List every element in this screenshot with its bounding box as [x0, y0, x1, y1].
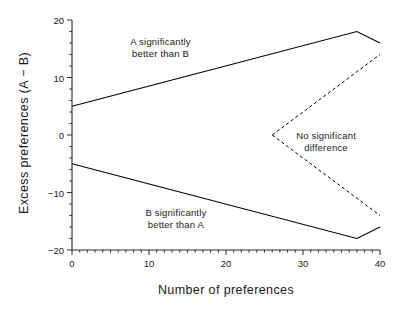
annotation-region-no-difference: No significant difference	[296, 130, 356, 154]
x-axis-tick-label: 40	[375, 258, 386, 269]
annotation-region-a-better: A significantly better than B	[130, 36, 191, 60]
annotation-region-b-better: B significantly better than A	[145, 207, 206, 231]
annotation-line: better than A	[145, 219, 206, 231]
series-line	[272, 55, 380, 136]
annotation-line: A significantly	[130, 36, 191, 48]
x-axis-tick-label: 20	[221, 258, 232, 269]
x-axis-tick-label: 10	[144, 258, 155, 269]
annotation-line: No significant	[296, 130, 356, 142]
x-axis-tick-label: 0	[69, 258, 74, 269]
series-line	[72, 32, 380, 107]
y-axis-tick-label: −10	[48, 187, 64, 198]
y-axis-title: Excess preferences (A − B)	[14, 13, 34, 253]
annotation-line: better than B	[130, 48, 191, 60]
plot-canvas	[0, 0, 397, 311]
y-axis-tick-label: −20	[48, 245, 64, 256]
y-axis-tick-label: 10	[53, 72, 64, 83]
annotation-line: B significantly	[145, 207, 206, 219]
annotation-line: difference	[296, 142, 356, 154]
y-axis-tick-label: 20	[53, 15, 64, 26]
series-line	[72, 164, 380, 239]
y-axis-tick-label: 0	[59, 130, 64, 141]
x-axis-title: Number of preferences	[72, 283, 380, 297]
x-axis-tick-label: 30	[298, 258, 309, 269]
chart-figure: Excess preferences (A − B) Number of pre…	[0, 0, 397, 311]
